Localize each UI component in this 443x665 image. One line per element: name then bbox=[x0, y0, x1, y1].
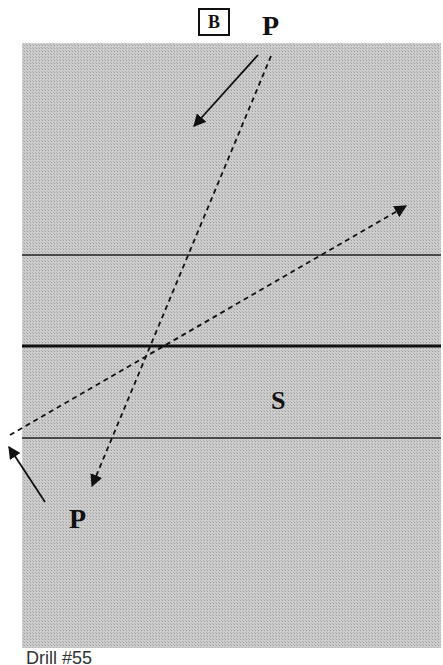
label-p-top: P bbox=[262, 12, 279, 40]
panel-label-box: B bbox=[198, 8, 230, 36]
label-p-bottom: P bbox=[69, 505, 86, 533]
figure-caption: Drill #55 bbox=[26, 648, 92, 665]
diagram-canvas bbox=[0, 0, 443, 665]
label-s: S bbox=[271, 388, 285, 414]
diagram-stage: B P P S Drill #55 bbox=[0, 0, 443, 665]
